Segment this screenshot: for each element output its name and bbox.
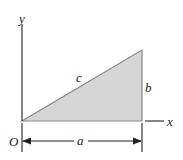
diagram-svg: y x O c b a (0, 0, 183, 160)
right-triangle-diagram: y x O c b a (0, 0, 183, 160)
y-axis-label: y (17, 11, 25, 26)
origin-label: O (9, 134, 19, 149)
x-axis-label: x (166, 114, 173, 129)
triangle (22, 50, 142, 121)
base-label: a (77, 133, 84, 148)
height-label: b (145, 80, 152, 95)
hypotenuse-label: c (76, 70, 82, 85)
